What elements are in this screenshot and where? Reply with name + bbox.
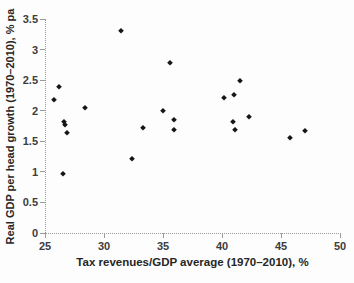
y-tick-label: 2.5 — [6, 73, 38, 87]
y-tick-label: 1 — [6, 165, 38, 179]
x-tick-label: 40 — [207, 239, 237, 253]
scatter-chart: Real GDP per head growth (1970–2010), % … — [0, 0, 354, 283]
y-tick-label: 0 — [6, 226, 38, 240]
data-point-diamond — [246, 114, 252, 120]
y-tick-label: 3.5 — [6, 12, 38, 26]
y-tick-label: 3 — [6, 43, 38, 57]
data-point-diamond — [60, 171, 66, 177]
data-point-diamond — [62, 122, 68, 128]
data-point-diamond — [171, 117, 177, 123]
data-point-diamond — [171, 127, 177, 133]
y-tick — [40, 110, 45, 111]
x-tick — [163, 233, 164, 238]
y-tick — [40, 19, 45, 20]
x-tick-label: 35 — [148, 239, 178, 253]
y-tick — [40, 49, 45, 50]
data-point-diamond — [129, 156, 135, 162]
plot-area — [45, 19, 340, 233]
data-point-diamond — [231, 92, 237, 98]
x-tick — [45, 233, 46, 238]
data-point-diamond — [140, 125, 146, 131]
y-tick — [40, 141, 45, 142]
x-tick-label: 50 — [325, 239, 354, 253]
data-point-diamond — [160, 108, 166, 114]
y-tick — [40, 80, 45, 81]
x-tick — [222, 233, 223, 238]
data-point-diamond — [230, 119, 236, 125]
x-axis-line — [45, 233, 341, 234]
y-tick — [40, 171, 45, 172]
data-point-diamond — [237, 78, 243, 84]
y-tick-label: 2 — [6, 104, 38, 118]
y-axis-line — [45, 19, 46, 233]
data-point-diamond — [117, 28, 123, 34]
x-tick — [104, 233, 105, 238]
data-point-diamond — [221, 95, 227, 101]
data-point-diamond — [232, 127, 238, 133]
x-tick-label: 25 — [30, 239, 60, 253]
data-point-diamond — [167, 60, 173, 66]
data-point-diamond — [287, 135, 293, 141]
x-tick-label: 30 — [89, 239, 119, 253]
x-tick-label: 45 — [266, 239, 296, 253]
x-tick — [340, 233, 341, 238]
data-point-diamond — [56, 84, 62, 90]
data-point-diamond — [64, 130, 70, 136]
x-tick — [281, 233, 282, 238]
data-point-diamond — [301, 128, 307, 134]
y-tick-label: 1.5 — [6, 134, 38, 148]
data-point-diamond — [51, 97, 57, 103]
x-axis-title: Tax revenues/GDP average (1970–2010), % — [45, 256, 340, 268]
y-tick-label: 0.5 — [6, 195, 38, 209]
data-point-diamond — [82, 105, 88, 111]
y-tick — [40, 202, 45, 203]
